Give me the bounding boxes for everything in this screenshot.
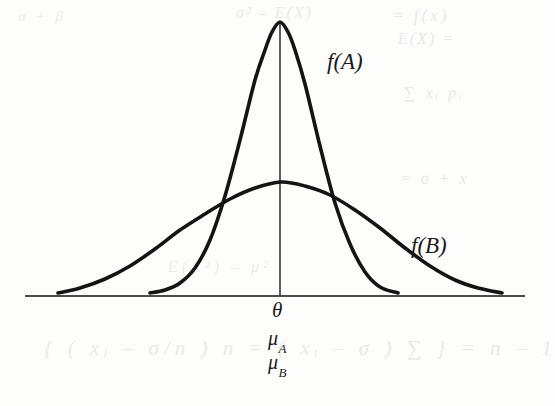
mu-b-subscript: B [279,365,287,380]
axis-label-mu-a: μA [268,327,286,354]
mu-b-base: μ [268,351,278,373]
mu-a-base: μ [268,327,278,349]
curve-label-fa: f(A) [327,49,363,75]
curve-label-fb: f(B) [411,233,447,259]
axis-label-theta: θ [272,298,282,323]
axis-label-mu-b: μB [268,351,286,378]
